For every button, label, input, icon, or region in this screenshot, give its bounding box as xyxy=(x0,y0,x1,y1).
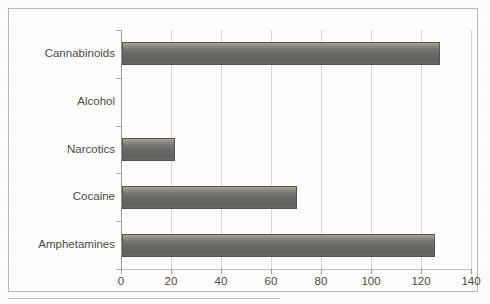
caption-rule xyxy=(8,298,280,299)
x-tick-mark xyxy=(321,269,322,274)
x-tick-mark xyxy=(271,269,272,274)
x-axis-line xyxy=(121,269,471,270)
x-tick-mark xyxy=(371,269,372,274)
x-tick-label: 80 xyxy=(315,275,328,288)
category-label-cannabinoids: Cannabinoids xyxy=(45,47,115,60)
category-label-amphetamines: Amphetamines xyxy=(38,238,115,251)
x-tick-label: 120 xyxy=(411,275,430,288)
x-tick-label: 100 xyxy=(361,275,380,288)
x-tick-mark xyxy=(221,269,222,274)
category-tick-mark xyxy=(116,269,121,270)
category-label-alcohol: Alcohol xyxy=(77,95,115,108)
x-tick-mark xyxy=(121,269,122,274)
x-tick-label: 60 xyxy=(265,275,278,288)
x-tick-label: 0 xyxy=(118,275,124,288)
category-label-cocaine: Cocaine xyxy=(73,190,115,203)
x-tick-label: 20 xyxy=(165,275,178,288)
x-tick-mark xyxy=(471,269,472,274)
category-tick-mark xyxy=(116,78,121,79)
category-tick-mark xyxy=(116,173,121,174)
category-tick-mark xyxy=(116,221,121,222)
bar-narcotics xyxy=(122,138,175,161)
x-tick-mark xyxy=(421,269,422,274)
x-tick-label: 40 xyxy=(215,275,228,288)
x-tick-label: 140 xyxy=(461,275,480,288)
gridline xyxy=(471,30,472,269)
bar-cocaine xyxy=(122,186,297,209)
bar-amphetamines xyxy=(122,234,435,257)
bar-cannabinoids xyxy=(122,42,440,65)
figure-page: AmphetaminesCocaineNarcoticsAlcoholCanna… xyxy=(0,0,490,304)
category-axis-labels: AmphetaminesCocaineNarcoticsAlcoholCanna… xyxy=(19,30,115,269)
chart-frame: AmphetaminesCocaineNarcoticsAlcoholCanna… xyxy=(8,8,478,292)
category-label-narcotics: Narcotics xyxy=(67,143,115,156)
category-tick-mark xyxy=(116,126,121,127)
plot-area xyxy=(121,30,471,269)
x-tick-mark xyxy=(171,269,172,274)
category-tick-mark xyxy=(116,30,121,31)
